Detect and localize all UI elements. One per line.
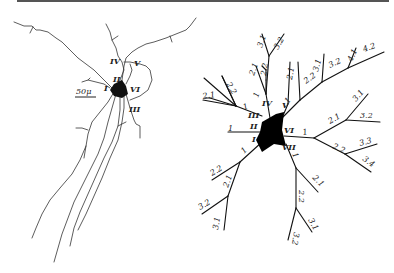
label-3.2: 3.2: [360, 111, 373, 120]
label-III: III: [128, 104, 140, 114]
label-3.1: 3.1: [255, 34, 268, 49]
stem-VII: VII: [282, 142, 296, 152]
label-3.2: 3.2: [327, 56, 342, 70]
scale-bar-label: 50μ: [76, 87, 91, 96]
label-1: 1: [242, 102, 250, 112]
label-2.1: 2.1: [310, 172, 326, 188]
label-2.1: 2.1: [285, 66, 296, 81]
stem-III: III: [247, 110, 259, 120]
neuron-drawing: IV V II I VI III 50μ: [0, 0, 200, 273]
label-I: I: [103, 83, 108, 93]
label-2.2: 2.2: [208, 164, 224, 179]
stem-II: II: [249, 121, 258, 131]
stem-VI: VI: [284, 125, 294, 135]
stem-I: I: [251, 134, 256, 144]
label-2.2: 2.2: [224, 80, 239, 96]
label-1-left: 1: [228, 124, 233, 133]
label-2.2: 2.2: [301, 71, 317, 86]
label-V: V: [134, 58, 141, 68]
label-2.2: 2.2: [297, 189, 306, 203]
label-2.1: 2.1: [247, 62, 260, 78]
label-3.1: 3.1: [306, 217, 320, 233]
label-2.1: 2.1: [201, 90, 216, 101]
label-3.1: 3.1: [351, 88, 366, 104]
label-2.1: 2.1: [326, 112, 342, 127]
label-1: 1: [302, 127, 309, 137]
label-2.1: 2.1: [221, 174, 234, 190]
label-1: 1: [283, 96, 293, 106]
label-3.1: 3.1: [211, 216, 222, 230]
label-VI: VI: [130, 84, 140, 94]
label-II: II: [112, 74, 121, 84]
label-3.3: 3.3: [358, 136, 373, 148]
label-3.2: 3.2: [290, 232, 301, 246]
label-1: 1: [239, 145, 249, 155]
label-2.2: 2.2: [330, 141, 346, 155]
label-2.2: 2.2: [259, 62, 270, 77]
soma-right: [256, 112, 286, 152]
label-IV: IV: [109, 56, 121, 66]
label-1: 1: [290, 151, 300, 159]
label-3.1: 3.1: [311, 58, 323, 73]
label-4.1: 4.1: [345, 48, 359, 64]
label-3.2: 3.2: [272, 35, 286, 51]
label-1: 1: [251, 91, 261, 99]
label-3.4: 3.4: [361, 154, 377, 169]
stem-V: V: [282, 100, 289, 110]
label-4.2: 4.2: [361, 41, 377, 54]
stem-IV: IV: [261, 98, 273, 108]
